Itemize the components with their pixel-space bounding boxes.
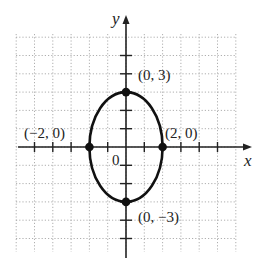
data-point	[122, 88, 131, 97]
data-point	[85, 143, 94, 152]
point-label-right: (2, 0)	[165, 125, 198, 142]
origin-label: 0	[112, 152, 120, 168]
y-axis-label: y	[110, 9, 120, 28]
y-axis-arrow-icon	[123, 15, 130, 24]
x-axis-label: x	[243, 151, 252, 170]
data-point	[158, 143, 167, 152]
point-label-top: (0, 3)	[138, 67, 171, 84]
point-label-bottom: (0, −3)	[138, 209, 179, 226]
x-axis-arrow-icon	[243, 144, 252, 151]
data-point	[122, 198, 131, 207]
ellipse-graph: x y 0 (0, 3) (2, 0) (−2, 0) (0, −3)	[0, 0, 272, 263]
point-label-left: (−2, 0)	[24, 125, 65, 142]
